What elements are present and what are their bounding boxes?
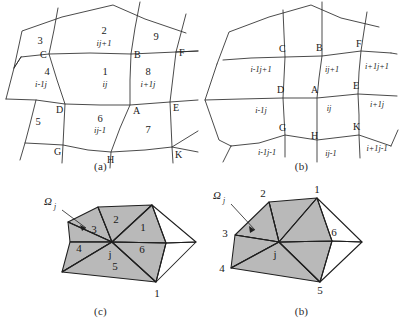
cell-number-8: 8: [145, 66, 150, 77]
node-index-G: i-1j-1: [258, 148, 276, 157]
triangle-number-3: 3: [91, 223, 97, 235]
vertex-label-6: 6: [331, 226, 337, 238]
node-index-B: ij+1: [325, 65, 339, 74]
omega-subscript-c: j: [53, 202, 56, 211]
cell-number-3: 3: [37, 35, 42, 46]
panel-d-caption: (b): [201, 305, 402, 317]
node-index-C: i-1j+1: [251, 65, 272, 74]
panel-c-support-domain: Ω j 2 1 3 4 5 6 j 1 (c): [0, 180, 201, 324]
node-label-H: H: [311, 130, 318, 141]
node-label-C: C: [40, 49, 47, 60]
node-label-F: F: [179, 47, 185, 58]
panel-b-node-labels: C B F D A E G H K: [277, 38, 362, 141]
node-index-F: i+1j+1: [365, 62, 389, 71]
figure-container: C B F D A E G H K 3 2 9 4 1 8 5 6 7: [0, 0, 402, 324]
node-label-A: A: [311, 84, 319, 95]
panel-b-caption: (b): [201, 160, 402, 172]
node-index-A: ij: [327, 104, 332, 113]
node-label-B: B: [316, 42, 323, 53]
triangle-number-2: 2: [113, 213, 119, 225]
omega-label-d: Ω: [213, 189, 221, 201]
panel-b-drawing: C B F D A E G H K i-1j+1 ij+1 i+1j+1 i-1…: [201, 0, 402, 180]
cell-index-8: i+1j: [141, 79, 156, 89]
node-label-F: F: [356, 38, 362, 49]
node-label-A: A: [133, 105, 141, 116]
cell-number-9: 9: [153, 31, 158, 42]
omega-label-c: Ω: [44, 195, 52, 207]
panel-d-support-domain: Ω j 2 1 3 6 4 5 j (b): [201, 180, 402, 324]
cell-index-4: i-1j: [35, 79, 48, 89]
node-label-E: E: [173, 102, 179, 113]
panel-a-caption: (a): [0, 160, 201, 172]
node-label-C: C: [279, 43, 286, 54]
omega-subscript-d: j: [222, 196, 225, 205]
node-index-E: i+1j: [370, 100, 385, 109]
node-index-K: i+1j-1: [367, 144, 388, 153]
node-label-G: G: [279, 122, 286, 133]
panel-d-drawing: Ω j 2 1 3 6 4 5 j: [201, 180, 402, 324]
node-label-G: G: [54, 146, 61, 157]
cell-number-1: 1: [102, 66, 107, 77]
cell-number-7: 7: [145, 124, 150, 135]
node-label-K: K: [175, 149, 183, 160]
panel-b-curvilinear-mesh-indexed: C B F D A E G H K i-1j+1 ij+1 i+1j+1 i-1…: [201, 0, 402, 180]
panel-b-index-labels: i-1j+1 ij+1 i+1j+1 i-1j ij i+1j i-1j-1 i…: [251, 62, 389, 158]
triangle-number-4: 4: [76, 242, 82, 254]
vertex-label-5: 5: [317, 284, 323, 296]
node-index-H: ij-1: [325, 149, 336, 158]
node-label-D: D: [56, 104, 63, 115]
cell-number-4: 4: [44, 66, 50, 77]
panel-a-curvilinear-mesh: C B F D A E G H K 3 2 9 4 1 8 5 6 7: [0, 0, 201, 180]
node-label-B: B: [134, 49, 141, 60]
node-label-D: D: [277, 84, 284, 95]
cell-number-5: 5: [35, 116, 40, 127]
vertex-label-1: 1: [154, 287, 160, 299]
cell-index-1: ij: [103, 79, 108, 89]
cell-number-6: 6: [97, 113, 102, 124]
vertex-label-1: 1: [314, 183, 320, 195]
cell-index-2: ij+1: [97, 38, 112, 48]
node-index-D: i-1j: [255, 106, 267, 115]
center-node-label-j: j: [107, 248, 111, 260]
cell-number-2: 2: [101, 25, 106, 36]
triangle-number-5: 5: [112, 260, 118, 272]
vertex-label-4: 4: [219, 262, 225, 274]
shaded-triangles-d: [231, 198, 332, 282]
panel-a-drawing: C B F D A E G H K 3 2 9 4 1 8 5 6 7: [0, 0, 201, 180]
center-node-label-j: j: [272, 248, 276, 260]
cell-index-6: ij-1: [94, 125, 106, 135]
node-label-E: E: [353, 80, 359, 91]
triangle-number-6: 6: [139, 243, 145, 255]
triangle-number-1: 1: [140, 221, 146, 233]
panel-c-caption: (c): [0, 305, 201, 317]
vertex-label-3: 3: [222, 227, 228, 239]
panel-c-drawing: Ω j 2 1 3 4 5 6 j 1: [0, 180, 201, 324]
vertex-label-2: 2: [260, 187, 266, 199]
mesh-lines-b: [205, 2, 398, 162]
node-label-K: K: [353, 121, 361, 132]
